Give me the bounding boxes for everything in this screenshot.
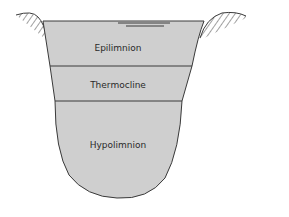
lake-diagram: Epilimnion Thermocline Hypolimnion <box>0 0 289 217</box>
thermocline-label: Thermocline <box>89 80 146 90</box>
hypolimnion-label: Hypolimnion <box>90 140 147 150</box>
left-bank <box>16 13 47 38</box>
epilimnion-label: Epilimnion <box>94 43 141 53</box>
right-bank <box>200 12 246 40</box>
